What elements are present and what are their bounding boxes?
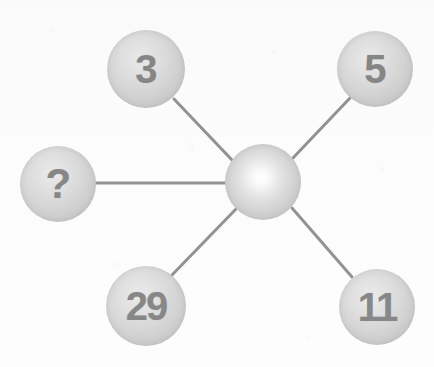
node-label-bottom-left: 29 — [126, 286, 167, 326]
node-label-top-right: 5 — [364, 49, 386, 89]
node-label-top-left: 3 — [135, 49, 157, 89]
edge-center-bottom-right — [292, 208, 352, 277]
node-top-right[interactable]: 5 — [337, 31, 413, 107]
node-top-left[interactable]: 3 — [107, 30, 185, 108]
node-label-left: ? — [45, 163, 70, 205]
node-bottom-left[interactable]: 29 — [106, 266, 186, 346]
node-left[interactable]: ? — [20, 146, 96, 222]
edge-center-bottom-left — [172, 209, 236, 275]
node-center[interactable] — [225, 144, 301, 220]
puzzle-diagram: 35?2911 — [0, 0, 434, 367]
node-label-bottom-right: 11 — [358, 287, 396, 327]
node-bottom-right[interactable]: 11 — [339, 269, 415, 345]
edge-center-top-right — [292, 98, 350, 159]
edge-center-top-left — [174, 99, 232, 160]
